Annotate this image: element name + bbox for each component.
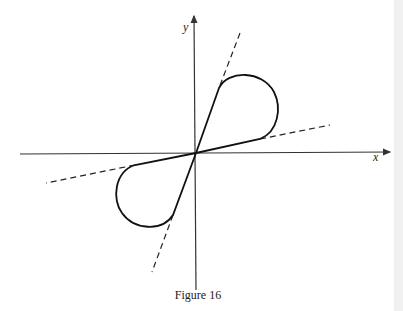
figure-caption: Figure 16: [0, 288, 396, 303]
tangent-line-steep: [219, 33, 240, 88]
y-axis-label: y: [183, 20, 188, 35]
x-axis: [20, 152, 390, 154]
curve-lower-loop: [116, 153, 196, 227]
curve-upper-loop: [196, 75, 278, 153]
figure-diagram: [0, 0, 403, 311]
x-axis-label: x: [373, 150, 378, 165]
